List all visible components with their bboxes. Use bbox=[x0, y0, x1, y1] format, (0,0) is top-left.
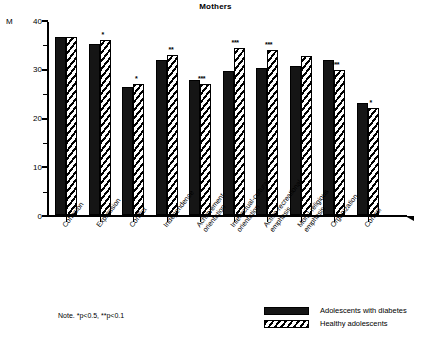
legend-label-diabetes: Adolescents with diabetes bbox=[320, 306, 407, 315]
plot-area: ***************** bbox=[47, 22, 417, 217]
y-tick-label-20: 20 bbox=[22, 115, 42, 123]
legend-swatch-hatched-icon bbox=[264, 320, 309, 328]
bar-diabetes bbox=[89, 44, 100, 215]
legend-swatch-solid-icon bbox=[264, 307, 309, 315]
significance-marker: *** bbox=[198, 76, 205, 82]
y-axis-line bbox=[47, 22, 49, 217]
y-tick-label-40: 40 bbox=[22, 18, 42, 26]
y-minor-tick-25 bbox=[43, 94, 48, 95]
y-tick-40 bbox=[42, 20, 48, 22]
y-minor-tick-35 bbox=[43, 45, 48, 46]
significance-note: Note. *p<0.5, **p<0.1 bbox=[58, 312, 124, 319]
bar-healthy bbox=[100, 40, 111, 215]
bar-group: * bbox=[122, 20, 146, 215]
bar-healthy bbox=[368, 108, 379, 215]
y-minor-tick-15 bbox=[43, 143, 48, 144]
y-axis-label: M bbox=[6, 17, 13, 26]
y-tick-label-30: 30 bbox=[22, 66, 42, 74]
bar-healthy bbox=[334, 70, 345, 215]
significance-marker: *** bbox=[232, 40, 239, 46]
significance-marker: * bbox=[370, 100, 372, 106]
bar-diabetes bbox=[156, 60, 167, 215]
bar-group: *** bbox=[223, 20, 247, 215]
y-tick-0 bbox=[42, 215, 48, 217]
bar-diabetes bbox=[122, 87, 133, 215]
bar-healthy bbox=[200, 84, 211, 215]
bar-group: *** bbox=[189, 20, 213, 215]
y-tick-20 bbox=[42, 118, 48, 120]
y-tick-30 bbox=[42, 69, 48, 71]
chart-title: Mothers bbox=[0, 2, 431, 11]
x-axis-arrow bbox=[405, 216, 414, 221]
significance-marker: * bbox=[135, 76, 137, 82]
bar-group bbox=[55, 20, 79, 215]
bar-healthy bbox=[234, 48, 245, 215]
bar-group: * bbox=[357, 20, 381, 215]
legend-label-healthy: Healthy adolescents bbox=[320, 319, 388, 328]
significance-marker: *** bbox=[332, 62, 339, 68]
bar-diabetes bbox=[55, 37, 66, 215]
bar-group: ** bbox=[156, 20, 180, 215]
bar-group: * bbox=[89, 20, 113, 215]
bar-healthy bbox=[133, 84, 144, 215]
chart-figure: Mothers M 40 30 20 10 0 ****************… bbox=[0, 0, 431, 339]
significance-marker: *** bbox=[265, 42, 272, 48]
y-tick-10 bbox=[42, 166, 48, 168]
y-tick-label-0: 0 bbox=[22, 213, 42, 221]
y-minor-tick-5 bbox=[43, 192, 48, 193]
y-tick-label-10: 10 bbox=[22, 164, 42, 172]
significance-marker: ** bbox=[169, 47, 174, 53]
significance-marker: * bbox=[102, 32, 104, 38]
bar-group: *** bbox=[323, 20, 347, 215]
bar-healthy bbox=[66, 37, 77, 215]
bar-healthy bbox=[167, 55, 178, 215]
